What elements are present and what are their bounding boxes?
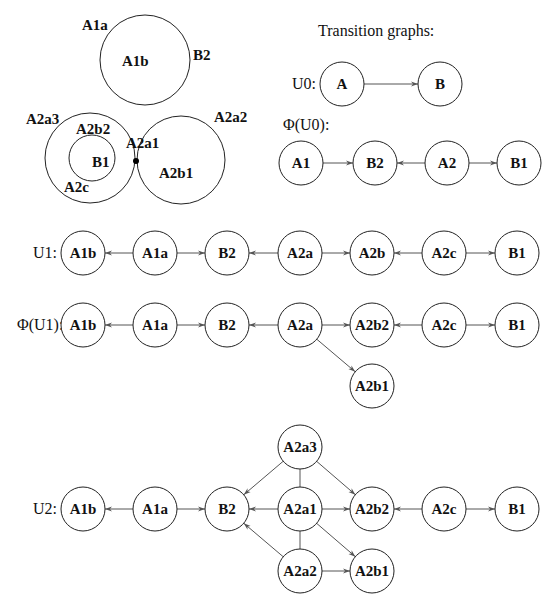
venn-diagram: A1aA1bB2A2a3A2a2A2b2A2a1B1A2b1A2c bbox=[26, 15, 247, 204]
node-label: A1 bbox=[292, 155, 310, 171]
venn-label: A2a3 bbox=[26, 111, 59, 127]
node-label: B2 bbox=[218, 245, 236, 261]
edge-A2a2-B2 bbox=[244, 523, 283, 557]
transition-graphs-title: Transition graphs: bbox=[318, 22, 434, 40]
node-A1a: A1a bbox=[133, 487, 177, 531]
node-label: A2b2 bbox=[355, 501, 389, 517]
node-label: B1 bbox=[508, 501, 526, 517]
node-B1: B1 bbox=[497, 141, 541, 185]
node-A2b1: A2b1 bbox=[350, 364, 394, 408]
diagram-canvas: A1aA1bB2A2a3A2a2A2b2A2a1B1A2b1A2c Transi… bbox=[0, 0, 557, 600]
node-A1: A1 bbox=[279, 141, 323, 185]
node-A2a2: A2a2 bbox=[278, 549, 322, 593]
node-A: A bbox=[320, 62, 364, 106]
node-label: A1b bbox=[70, 501, 97, 517]
node-B: B bbox=[418, 62, 462, 106]
edge-A2a3-B2 bbox=[244, 461, 283, 495]
graph-label: U0: bbox=[292, 75, 316, 92]
node-label: A2b1 bbox=[355, 563, 389, 579]
graph-4: U2:A1bA1aB2A2a3A2a1A2a2A2b2A2b1A2cB1 bbox=[33, 425, 539, 593]
node-B1: B1 bbox=[495, 487, 539, 531]
venn-label: A2c bbox=[64, 179, 89, 195]
node-B2: B2 bbox=[205, 303, 249, 347]
node-A2a: A2a bbox=[278, 231, 322, 275]
venn-point bbox=[133, 158, 139, 164]
node-label: A2b2 bbox=[355, 317, 389, 333]
node-label: A2a2 bbox=[283, 563, 316, 579]
node-label: A2a bbox=[287, 245, 313, 261]
node-A1b: A1b bbox=[61, 231, 105, 275]
graph-1: Φ(U0):A1B2A2B1 bbox=[279, 116, 541, 185]
node-B2: B2 bbox=[205, 487, 249, 531]
node-label: A bbox=[337, 76, 348, 92]
venn-label: A2a1 bbox=[126, 135, 159, 151]
node-label: A2b1 bbox=[355, 378, 389, 394]
graph-label: Φ(U0): bbox=[283, 116, 329, 134]
graph-3: Φ(U1):A1bA1aB2A2aA2b2A2cB1A2b1 bbox=[17, 303, 539, 408]
graph-label: Φ(U1): bbox=[17, 316, 63, 334]
venn-label: A1b bbox=[122, 53, 149, 69]
node-label: B1 bbox=[508, 317, 526, 333]
node-A1b: A1b bbox=[61, 487, 105, 531]
node-B2: B2 bbox=[353, 141, 397, 185]
venn-label: A2b2 bbox=[76, 121, 110, 137]
node-label: A2c bbox=[432, 317, 457, 333]
node-label: B1 bbox=[508, 245, 526, 261]
node-A2c: A2c bbox=[422, 303, 466, 347]
node-B1: B1 bbox=[495, 303, 539, 347]
node-label: A1a bbox=[142, 317, 168, 333]
node-A2b2: A2b2 bbox=[350, 487, 394, 531]
node-A2b1: A2b1 bbox=[350, 549, 394, 593]
graph-label: U1: bbox=[33, 244, 57, 261]
venn-circle bbox=[137, 116, 225, 204]
node-label: B2 bbox=[218, 501, 236, 517]
venn-label: A2b1 bbox=[159, 165, 193, 181]
venn-label: A2a2 bbox=[214, 109, 247, 125]
graph-2: U1:A1bA1aB2A2aA2bA2cB1 bbox=[33, 231, 539, 275]
edge-A2a3-A2b2 bbox=[317, 461, 356, 494]
node-label: A2b bbox=[359, 245, 386, 261]
node-B2: B2 bbox=[205, 231, 249, 275]
node-label: A2a3 bbox=[283, 439, 316, 455]
edge-A2a1-A2b1 bbox=[317, 523, 356, 556]
node-A2a3: A2a3 bbox=[278, 425, 322, 469]
venn-label: B1 bbox=[92, 154, 110, 170]
node-label: A2a1 bbox=[283, 501, 316, 517]
node-A1a: A1a bbox=[133, 303, 177, 347]
node-label: A2 bbox=[438, 155, 456, 171]
node-label: B2 bbox=[366, 155, 384, 171]
node-A2c: A2c bbox=[422, 231, 466, 275]
edge-A2a-A2b1 bbox=[317, 339, 355, 372]
node-A2: A2 bbox=[425, 141, 469, 185]
node-label: A1a bbox=[142, 501, 168, 517]
node-A2b: A2b bbox=[350, 231, 394, 275]
node-A2a: A2a bbox=[278, 303, 322, 347]
node-label: A2c bbox=[432, 501, 457, 517]
graph-0: U0:AB bbox=[292, 62, 462, 106]
transition-graphs: U0:ABΦ(U0):A1B2A2B1U1:A1bA1aB2A2aA2bA2cB… bbox=[17, 62, 541, 593]
venn-label: A1a bbox=[82, 17, 108, 33]
node-label: A1a bbox=[142, 245, 168, 261]
venn-label: B2 bbox=[193, 47, 211, 63]
node-label: A1b bbox=[70, 317, 97, 333]
graph-label: U2: bbox=[33, 500, 57, 517]
node-label: A2a bbox=[287, 317, 313, 333]
node-label: A2c bbox=[432, 245, 457, 261]
node-A2b2: A2b2 bbox=[350, 303, 394, 347]
node-label: B1 bbox=[510, 155, 528, 171]
node-label: A1b bbox=[70, 245, 97, 261]
node-A2a1: A2a1 bbox=[278, 487, 322, 531]
node-A1a: A1a bbox=[133, 231, 177, 275]
node-B1: B1 bbox=[495, 231, 539, 275]
node-A1b: A1b bbox=[61, 303, 105, 347]
node-label: B2 bbox=[218, 317, 236, 333]
node-label: B bbox=[435, 76, 445, 92]
node-A2c: A2c bbox=[422, 487, 466, 531]
